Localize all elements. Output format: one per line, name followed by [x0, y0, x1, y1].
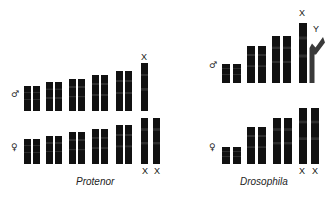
- chromosome-autosome-2a-drosophila-female: [247, 127, 255, 164]
- species-label-drosophila: Drosophila: [240, 177, 288, 187]
- female-symbol-drosophila: ♀: [209, 143, 216, 152]
- chromosome-autosome-1a-drosophila-female: [222, 147, 230, 164]
- label-x-chromosome-2-drosophila-female: X: [312, 167, 318, 176]
- karyotype-figure: ♂X♀XXProtenor♂XY♀XXDrosophila: [0, 0, 329, 199]
- row-drosophila-female: ♀XX: [0, 0, 329, 199]
- chromosome-x-chromosome-1-drosophila-female: [299, 108, 307, 164]
- chromosome-autosome-1b-drosophila-female: [233, 147, 241, 164]
- chromosome-autosome-3b-drosophila-female: [284, 118, 292, 164]
- panel-drosophila: ♂XY♀XXDrosophila: [0, 0, 329, 199]
- chromosome-autosome-2b-drosophila-female: [258, 127, 266, 164]
- chromosome-x-chromosome-2-drosophila-female: [311, 108, 319, 164]
- chromosome-autosome-3a-drosophila-female: [273, 118, 281, 164]
- label-x-chromosome-1-drosophila-female: X: [299, 167, 305, 176]
